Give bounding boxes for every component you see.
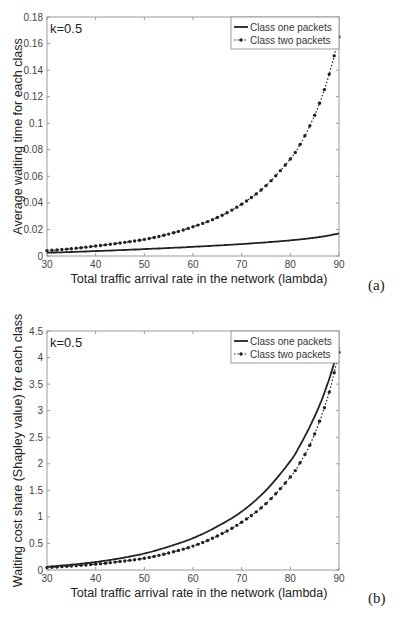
y-tick-label: 2	[37, 458, 43, 469]
x-tick-label: 80	[285, 259, 297, 270]
x-tick-label: 60	[187, 573, 199, 584]
svg-text:Class one packets: Class one packets	[250, 336, 332, 347]
y-tick-label: 0.12	[24, 91, 44, 102]
x-tick-label: 80	[285, 573, 297, 584]
y-axis-label: Waiting cost share (Shapley value) for e…	[11, 314, 25, 587]
chart-b-plot: 3040506070809000.511.522.533.544.5Total …	[0, 314, 405, 614]
x-tick-label: 50	[139, 259, 151, 270]
y-tick-label: 0.5	[29, 538, 43, 549]
x-tick-label: 90	[333, 573, 345, 584]
x-tick-label: 60	[187, 259, 199, 270]
y-tick-label: 2.5	[29, 432, 43, 443]
x-tick-label: 50	[139, 573, 151, 584]
svg-text:Class two packets: Class two packets	[250, 35, 331, 46]
x-axis-label: Total traffic arrival rate in the networ…	[71, 272, 328, 286]
legend: Class one packetsClass two packets	[231, 17, 339, 49]
y-tick-label: 0.1	[29, 118, 43, 129]
x-tick-label: 90	[333, 259, 345, 270]
y-tick-label: 0.06	[24, 171, 44, 182]
y-tick-label: 0.14	[24, 65, 44, 76]
k-annotation: k=0.5	[50, 21, 82, 36]
y-tick-label: 0.16	[24, 38, 44, 49]
x-axis-label: Total traffic arrival rate in the networ…	[71, 586, 328, 600]
figure-caption-fragment	[0, 616, 405, 627]
panel-label-a: (a)	[368, 277, 385, 294]
y-tick-label: 0.08	[24, 144, 44, 155]
chart-a: 3040506070809000.020.040.060.080.10.120.…	[0, 0, 405, 310]
y-axis-label: Average waiting time for each class	[11, 38, 25, 234]
chart-a-plot: 3040506070809000.020.040.060.080.10.120.…	[0, 0, 405, 310]
y-tick-label: 0.04	[24, 197, 44, 208]
panel-label-b: (b)	[368, 590, 386, 607]
axes: 3040506070809000.511.522.533.544.5	[29, 326, 345, 585]
y-tick-label: 1	[37, 511, 43, 522]
x-tick-label: 30	[41, 259, 53, 270]
k-annotation: k=0.5	[50, 335, 82, 350]
y-tick-label: 0.18	[24, 12, 44, 23]
x-tick-label: 30	[41, 573, 53, 584]
y-tick-label: 1.5	[29, 485, 43, 496]
x-tick-label: 40	[90, 573, 102, 584]
chart-b: 3040506070809000.511.522.533.544.5Total …	[0, 314, 405, 614]
y-tick-label: 4	[37, 352, 43, 363]
legend: Class one packetsClass two packets	[231, 331, 339, 363]
y-tick-label: 0	[37, 251, 43, 262]
svg-text:Class two packets: Class two packets	[250, 349, 331, 360]
y-tick-label: 3.5	[29, 379, 43, 390]
svg-text:Class one packets: Class one packets	[250, 22, 332, 33]
x-tick-label: 70	[236, 573, 248, 584]
y-tick-label: 4.5	[29, 326, 43, 337]
x-tick-label: 40	[90, 259, 102, 270]
y-tick-label: 3	[37, 405, 43, 416]
x-tick-label: 70	[236, 259, 248, 270]
y-tick-label: 0.02	[24, 224, 44, 235]
y-tick-label: 0	[37, 565, 43, 576]
